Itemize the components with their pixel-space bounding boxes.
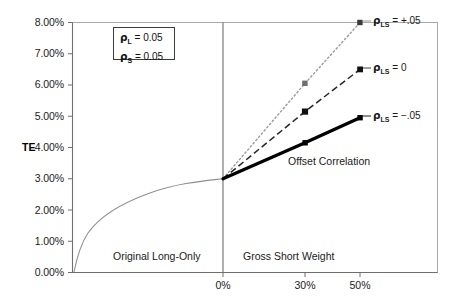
x-tick-label-0: 0%: [203, 279, 243, 291]
y-tick-label-6: 6.00%: [2, 78, 64, 90]
legend-row-rho-long: ρL = 0.05: [120, 30, 174, 49]
series-rho-zero-marker-50: [357, 67, 363, 73]
rho-subscript-ls-minus: LS: [381, 116, 390, 123]
rho-value-short: = 0.05: [135, 51, 163, 62]
chart-plot-area: [0, 0, 451, 302]
x-tick-label-30: 30%: [285, 279, 325, 291]
series-rho-minus-line: [223, 118, 360, 179]
rho-subscript-short: S: [128, 57, 133, 64]
x-tick-marks: [223, 273, 360, 278]
rho-symbol-long: ρ: [120, 31, 128, 43]
chart-container: 8.00% 7.00% 6.00% 5.00% 4.00% 3.00% 2.00…: [0, 0, 451, 302]
rho-value-long: = 0.05: [135, 32, 163, 43]
rho-symbol-ls-zero: ρ: [373, 61, 381, 73]
series-rho-zero-marker-30: [302, 109, 308, 115]
parameters-legend-box: ρL = 0.05 ρS = 0.05: [113, 27, 175, 60]
series-rho-minus-marker-50: [357, 115, 362, 120]
rho-value-ls-plus: = +.05: [392, 15, 420, 26]
legend-row-rho-short: ρS = 0.05: [120, 49, 174, 68]
series-annotation-rho-plus: ρLS = +.05: [373, 14, 421, 28]
x-tick-label-50: 50%: [340, 279, 380, 291]
rho-value-ls-minus: = −.05: [392, 110, 420, 121]
rho-value-ls-zero: = 0: [392, 62, 406, 73]
series-rho-minus-marker-30: [302, 140, 307, 145]
rho-symbol-short: ρ: [120, 50, 128, 62]
series-annotation-rho-zero: ρLS = 0: [373, 61, 406, 75]
series-rho-plus-marker-30: [302, 81, 307, 86]
region-label-long-only: Original Long-Only: [113, 250, 201, 262]
region-label-gross-short-weight: Gross Short Weight: [243, 250, 334, 262]
rho-subscript-ls-zero: LS: [381, 68, 390, 75]
rho-subscript-ls-plus: LS: [381, 21, 390, 28]
y-tick-marks: [68, 23, 73, 273]
y-tick-label-7: 7.00%: [2, 47, 64, 59]
y-tick-label-8: 8.00%: [2, 16, 64, 28]
rho-subscript-long: L: [128, 38, 132, 45]
y-axis-title: TE: [22, 141, 35, 153]
label-offset-correlation: Offset Correlation: [288, 155, 370, 167]
y-tick-label-0: 0.00%: [2, 266, 64, 278]
y-tick-label-5: 5.00%: [2, 110, 64, 122]
series-rho-plus-marker-50: [357, 20, 362, 25]
y-tick-label-3: 3.00%: [2, 172, 64, 184]
rho-symbol-ls-plus: ρ: [373, 14, 381, 26]
series-annotation-rho-minus: ρLS = −.05: [373, 109, 421, 123]
y-tick-label-1: 1.00%: [2, 235, 64, 247]
y-tick-label-2: 2.00%: [2, 204, 64, 216]
rho-symbol-ls-minus: ρ: [373, 109, 381, 121]
